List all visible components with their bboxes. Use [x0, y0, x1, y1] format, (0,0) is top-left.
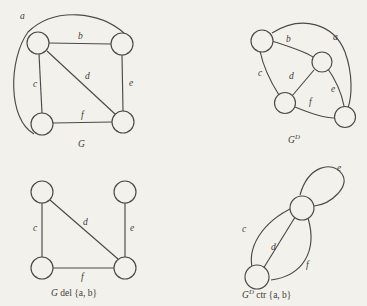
- graph-G-drawing: a b c d e f: [0, 0, 184, 160]
- edge-label-f: f: [81, 272, 85, 282]
- edge-label-d: d: [85, 71, 90, 81]
- edge-label-e: e: [337, 163, 341, 173]
- caption-graph-GD-sup: D: [295, 133, 300, 140]
- graph-GD-node-lower-left: [275, 93, 296, 114]
- edge-e-path: [122, 55, 123, 111]
- caption-graph-Gdel-main: G: [51, 288, 58, 298]
- graph-GDctr-node-upper: [290, 196, 314, 220]
- caption-graph-GDctr-tail: ctr {a, b}: [254, 290, 292, 300]
- caption-graph-G-text: G: [78, 139, 85, 149]
- edge-label-f: f: [309, 97, 313, 107]
- graph-GD-node-top-left: [251, 30, 273, 52]
- caption-graph-GD: GD: [288, 133, 300, 145]
- edge-label-b: b: [78, 31, 83, 41]
- edge-label-f: f: [306, 260, 310, 270]
- edge-label-b: b: [286, 34, 291, 44]
- panel-graph-G: a b c d e f G: [0, 0, 184, 160]
- edge-b-path: [272, 41, 313, 57]
- edge-f-path: [271, 218, 311, 280]
- edge-label-e: e: [331, 84, 335, 94]
- edge-b-path: [49, 43, 111, 44]
- edge-label-d: d: [289, 71, 294, 81]
- panel-graph-GD: a b c d e f GD: [184, 0, 367, 160]
- graph-G-node-bottom-left: [31, 113, 53, 135]
- edge-c-path: [260, 51, 279, 95]
- edge-label-c: c: [33, 79, 38, 89]
- graph-Gdel-node-top-left: [31, 181, 53, 203]
- graph-Gdel-drawing: c d e f: [0, 160, 184, 306]
- caption-graph-Gdel-tail: del {a, b}: [58, 288, 97, 298]
- edge-label-e: e: [129, 78, 133, 88]
- graph-GD-drawing: a b c d e f: [184, 0, 367, 160]
- edge-f-path: [295, 107, 334, 118]
- edge-label-c: c: [258, 68, 263, 78]
- edge-label-f: f: [81, 110, 85, 120]
- edge-d-path: [292, 70, 314, 96]
- graph-Gdel-node-top-right: [114, 181, 136, 203]
- panel-graph-GDctr: c d e f GD ctr {a, b}: [184, 160, 367, 306]
- edge-label-d: d: [83, 217, 88, 227]
- edge-d-path: [47, 51, 115, 114]
- caption-graph-GDctr-main: G: [242, 290, 249, 300]
- caption-graph-G: G: [78, 139, 85, 149]
- panel-graph-Gdel: c d e f G del {a, b}: [0, 160, 184, 306]
- edge-label-d: d: [271, 242, 276, 252]
- caption-graph-Gdel: G del {a, b}: [51, 288, 97, 298]
- graph-Gdel-node-bottom-right: [114, 257, 136, 279]
- caption-graph-GD-main: G: [288, 135, 295, 145]
- graph-GD-node-middle: [312, 52, 332, 72]
- graph-G-node-top-left: [27, 32, 49, 54]
- figure-four-graphs: a b c d e f G: [0, 0, 367, 306]
- graph-G-node-bottom-right: [112, 111, 134, 133]
- edge-f-path: [53, 122, 112, 123]
- edge-a-path: [14, 15, 124, 134]
- edge-label-a: a: [20, 11, 25, 21]
- edge-c-path: [251, 207, 294, 271]
- graph-GDctr-drawing: c d e f: [184, 160, 367, 306]
- edge-label-a: a: [333, 32, 338, 42]
- edge-c-path: [39, 54, 42, 113]
- edge-d-path: [50, 200, 118, 259]
- edge-label-e: e: [130, 223, 134, 233]
- edge-d-path: [263, 214, 297, 269]
- graph-Gdel-node-bottom-left: [31, 257, 53, 279]
- graph-GD-node-bottom-right: [335, 107, 356, 128]
- edge-label-c: c: [242, 224, 247, 234]
- graph-G-node-top-right: [111, 33, 133, 55]
- graph-GDctr-node-lower: [245, 265, 269, 289]
- caption-graph-GDctr: GD ctr {a, b}: [242, 288, 291, 300]
- edge-label-c: c: [33, 223, 38, 233]
